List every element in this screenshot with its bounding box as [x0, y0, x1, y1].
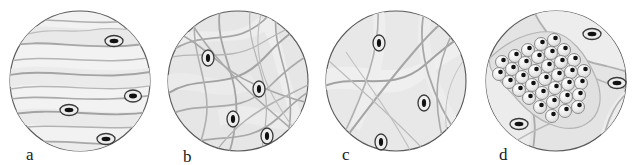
panel-d: d — [474, 0, 634, 165]
cell — [227, 111, 239, 127]
panel-c: c — [316, 0, 476, 165]
panel-b-label: b — [183, 148, 192, 165]
cell — [253, 81, 265, 97]
panel-a: a — [0, 0, 160, 165]
cell — [375, 134, 387, 150]
cell — [418, 95, 430, 111]
panel-a-illustration — [0, 0, 160, 165]
cell — [583, 29, 601, 40]
cell — [125, 90, 142, 102]
panel-d-label: d — [499, 146, 508, 163]
figure-panel-series: a — [0, 0, 634, 165]
panel-d-illustration — [474, 0, 634, 165]
cell — [510, 119, 528, 130]
panel-a-label: a — [26, 146, 34, 163]
cluster-cell — [547, 96, 560, 109]
panel-b: b — [158, 0, 318, 165]
cluster-cell — [555, 56, 568, 69]
cluster-cell — [565, 66, 578, 79]
cluster-cell — [575, 77, 588, 90]
cell — [261, 128, 273, 144]
cluster-cell — [532, 51, 545, 64]
panel-b-illustration — [158, 0, 318, 165]
cluster-cell — [549, 82, 562, 95]
cluster-cell — [562, 78, 575, 91]
cluster-cell — [560, 91, 573, 104]
cell — [608, 78, 626, 89]
cell — [60, 105, 78, 116]
cluster-cell — [545, 47, 558, 60]
cluster-cell — [559, 105, 572, 118]
cluster-cell — [546, 110, 559, 123]
cell — [202, 50, 214, 66]
cluster-cell — [572, 101, 585, 114]
cluster-cell — [548, 34, 561, 47]
cluster-cell — [539, 73, 552, 86]
cluster-cell — [558, 44, 571, 57]
cell — [97, 134, 115, 145]
cluster-cell — [536, 87, 549, 100]
cluster-cell — [523, 92, 536, 105]
cluster-cell — [552, 69, 565, 82]
cluster-cell — [573, 89, 586, 102]
cell — [105, 36, 123, 47]
cluster-cell — [535, 38, 548, 51]
cluster-cell — [578, 65, 591, 78]
panel-c-illustration — [316, 0, 476, 165]
cluster-cell — [534, 101, 547, 114]
cluster-cell — [568, 54, 581, 67]
panel-c-label: c — [342, 146, 350, 163]
cluster-cell — [542, 60, 555, 73]
cell — [373, 35, 385, 51]
